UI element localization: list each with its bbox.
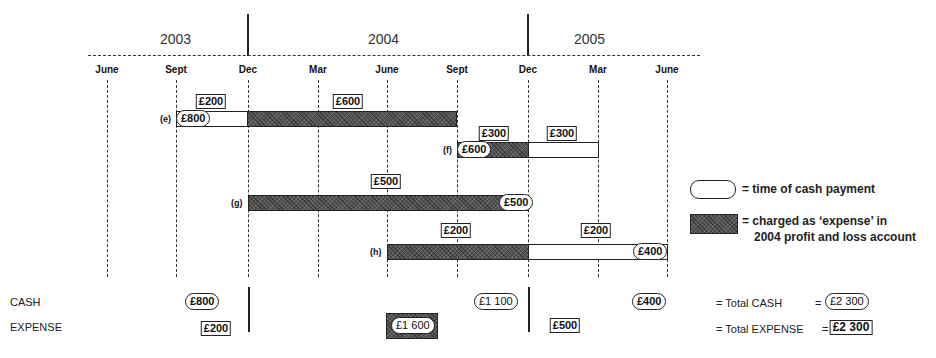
amount-label: £500 [371,174,401,189]
month-label: Sept [446,64,468,75]
row-tag: (e) [160,114,171,124]
amount-label: £200 [441,223,471,238]
year-2004: 2004 [368,31,399,47]
month-label: Dec [239,64,257,75]
year-divider [527,14,529,56]
legend-expense-text: 2004 profit and loss account [754,230,916,244]
row-tag: (h) [370,247,382,257]
equals-sign: = [815,297,821,309]
year-2005: 2005 [574,31,605,47]
month-label: Sept [165,64,187,75]
total-cash-label: = Total CASH [716,297,782,309]
year-divider [528,287,530,332]
month-label: June [375,64,398,75]
month-label: Dec [519,64,537,75]
month-guide [248,80,249,277]
cash-row-label: CASH [10,296,41,308]
year-divider [247,14,249,56]
row-tag: (f) [443,145,452,155]
year-2003: 2003 [160,31,191,47]
timeline-axis [88,55,700,56]
month-guide [176,80,177,277]
cash-payment-pill: £400 [633,243,667,260]
month-guide [107,80,108,277]
expense-2004: £1 600 [391,317,435,334]
cash-total-2004: £1 100 [474,293,518,310]
expense-row-label: EXPENSE [10,321,62,333]
amount-label: £200 [196,94,226,109]
year-divider [248,287,250,332]
month-label: Mar [309,64,327,75]
cash-total-2005: £400 [632,293,666,310]
amount-label: £200 [581,223,611,238]
amount-label: £300 [547,126,577,141]
bar-expense-segment [247,111,457,127]
month-label: Mar [589,64,607,75]
amount-label: £600 [333,94,363,109]
bar-prepaid-segment [528,142,599,158]
expense-2003: £200 [201,321,231,336]
equals-sign: = [822,323,828,335]
cash-payment-pill: £500 [499,194,533,211]
month-label: June [95,64,118,75]
month-guide [318,80,319,277]
total-cash-value: £2 300 [825,293,869,310]
legend-expense-swatch [690,214,738,234]
bar-expense-segment [248,195,529,211]
bar-expense-segment [387,244,529,260]
legend-cash-text: = time of cash payment [742,182,875,196]
cash-payment-pill: £800 [176,110,210,127]
cash-total-2003: £800 [185,293,219,310]
legend-expense-text: = charged as ‘expense’ in [742,214,887,228]
legend-cash-swatch [690,180,736,199]
total-expense-label: = Total EXPENSE [716,323,804,335]
row-tag: (g) [231,198,243,208]
total-expense-value: £2 300 [830,320,873,335]
expense-2005: £500 [550,318,580,333]
month-label: June [655,64,678,75]
cash-payment-pill: £600 [457,141,491,158]
amount-label: £300 [479,126,509,141]
